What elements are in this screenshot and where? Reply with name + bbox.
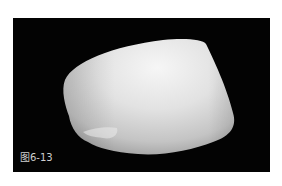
photo-frame: 图6-13 (13, 18, 270, 172)
grain-edge-shading (63, 39, 234, 154)
grain-photo (13, 18, 270, 172)
figure-caption: 图6-13 (20, 153, 53, 163)
